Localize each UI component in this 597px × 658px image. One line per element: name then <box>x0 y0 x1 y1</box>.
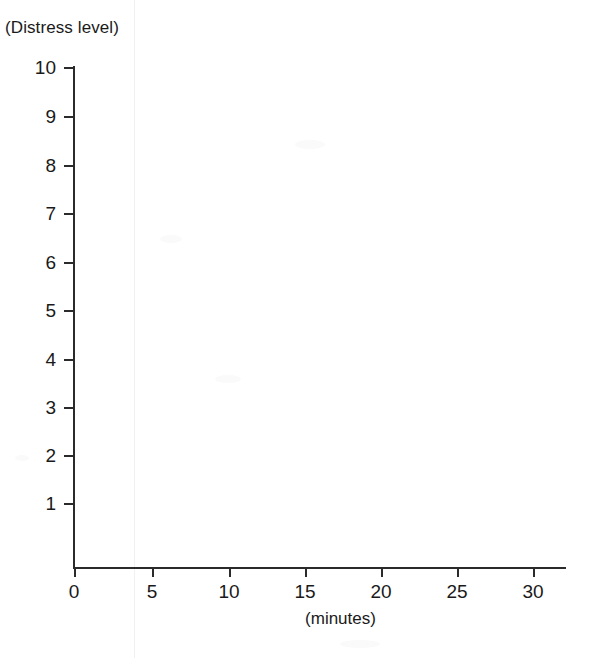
y-axis-tick <box>64 503 73 505</box>
x-axis-tick <box>381 569 383 577</box>
x-axis-title-text: (minutes) <box>305 609 376 629</box>
y-axis-label-8: 8 <box>10 156 56 175</box>
x-axis-label-10: 10 <box>199 582 259 601</box>
y-axis-tick <box>64 165 73 167</box>
y-axis-label-4: 4 <box>10 350 56 369</box>
y-axis-label-1: 1 <box>10 494 56 513</box>
y-axis-label-2: 2 <box>10 446 56 465</box>
y-axis-label-10: 10 <box>10 58 56 77</box>
y-axis-label-9: 9 <box>10 107 56 126</box>
y-axis-tick <box>64 455 73 457</box>
y-axis-tick <box>64 116 73 118</box>
y-axis-label-5: 5 <box>10 301 56 320</box>
x-axis-tick <box>305 569 307 577</box>
y-axis-tick <box>64 213 73 215</box>
y-axis-tick <box>64 407 73 409</box>
y-axis-tick <box>64 262 73 264</box>
y-axis-tick <box>64 67 73 69</box>
x-axis-label-15: 15 <box>275 582 335 601</box>
x-axis-tick <box>74 569 76 577</box>
y-axis-tick <box>64 310 73 312</box>
x-axis-line <box>73 567 566 569</box>
x-axis-label-0: 0 <box>44 582 104 601</box>
x-axis-tick <box>533 569 535 577</box>
x-axis-tick <box>152 569 154 577</box>
y-axis-label-3: 3 <box>10 398 56 417</box>
distress-level-chart: (Distress level) 10 9 8 7 6 5 4 3 2 1 0 … <box>0 0 597 658</box>
x-axis-label-30: 30 <box>503 582 563 601</box>
x-axis-label-20: 20 <box>351 582 411 601</box>
x-axis-title: (minutes) <box>0 609 597 629</box>
y-axis-label-7: 7 <box>10 204 56 223</box>
x-axis-label-25: 25 <box>427 582 487 601</box>
plot-area <box>75 66 566 567</box>
x-axis-tick <box>457 569 459 577</box>
y-axis-label-6: 6 <box>10 253 56 272</box>
x-axis-label-5: 5 <box>122 582 182 601</box>
x-axis-tick <box>229 569 231 577</box>
y-axis-tick <box>64 359 73 361</box>
y-axis-title: (Distress level) <box>5 18 119 38</box>
y-axis-line <box>73 66 75 569</box>
